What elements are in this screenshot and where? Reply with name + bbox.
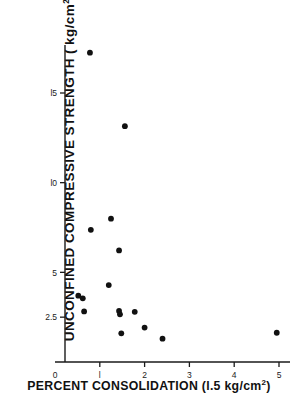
x-axis-label: PERCENT CONSOLIDATION (l.5 kg/cm2) (0, 378, 298, 393)
y-axis-tick-label: 2.5 (45, 312, 57, 322)
y-axis-tick-label: l0 (50, 178, 57, 188)
data-point (116, 248, 122, 254)
y-axis-tick-label: l5 (50, 88, 57, 98)
data-point (106, 282, 112, 288)
data-point (80, 295, 86, 301)
data-point (88, 227, 94, 233)
scatter-chart-figure: UNCONFINED COMPRESSIVE STRENGTH ( kg/cm2… (0, 0, 298, 403)
plot-area: 2.55l0l50l2345 (0, 0, 298, 403)
x-axis-label-tail: ) (266, 379, 270, 393)
data-point (160, 336, 166, 342)
data-point (81, 309, 87, 315)
data-point (122, 123, 128, 129)
data-point (117, 311, 123, 317)
data-point (87, 50, 93, 56)
data-point (274, 330, 280, 336)
y-axis-tick-label: 5 (52, 268, 57, 278)
data-point (142, 325, 148, 331)
data-point (118, 330, 124, 336)
data-point (108, 216, 114, 222)
data-point (132, 309, 138, 315)
x-axis-label-text: PERCENT CONSOLIDATION (l.5 kg/cm (27, 379, 261, 393)
